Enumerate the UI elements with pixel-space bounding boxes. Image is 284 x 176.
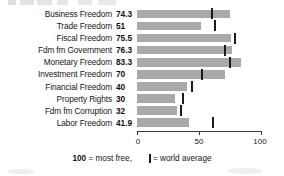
row-label: Property Rights (0, 93, 112, 105)
value-bar (137, 34, 231, 43)
value-bar (137, 58, 241, 67)
row-label: Fdm fm Corruption (0, 105, 112, 117)
table-row: Financial Freedom 40 (0, 81, 284, 93)
table-row: Investment Freedom 70 (0, 68, 284, 80)
table-row: Monetary Freedom 83.3 (0, 56, 284, 68)
table-row: Property Rights 30 (0, 93, 284, 105)
cropped-title-sliver (8, 0, 136, 5)
legend-most-free: 100 = most free, (73, 154, 132, 163)
world-average-tick (214, 20, 216, 31)
row-value: 30 (116, 93, 134, 105)
legend-most-free-text: = most free, (86, 154, 132, 163)
table-row: Trade Freedom 51 (0, 20, 284, 32)
world-average-tick (180, 105, 182, 116)
x-axis-tick-label: 100 (253, 136, 266, 147)
row-value: 83.3 (116, 56, 134, 68)
scan-smudge (8, 169, 34, 174)
row-plot (137, 117, 262, 129)
world-average-tick-icon (149, 154, 151, 163)
world-average-tick (224, 45, 226, 56)
row-plot (137, 32, 262, 44)
table-row: Fiscal Freedom 75.5 (0, 32, 284, 44)
row-label: Fdm fm Government (0, 44, 112, 56)
row-label: Financial Freedom (0, 81, 112, 93)
world-average-tick (229, 57, 231, 68)
world-average-tick (212, 117, 214, 128)
row-label: Trade Freedom (0, 20, 112, 32)
x-axis-tick-label: 50 (195, 136, 204, 147)
row-value: 76.3 (116, 44, 134, 56)
row-plot (137, 68, 262, 80)
table-row: Labor Freedom 41.9 (0, 117, 284, 129)
x-axis (137, 131, 262, 135)
world-average-tick (211, 8, 213, 19)
row-plot (137, 20, 262, 32)
row-plot (137, 56, 262, 68)
row-value: 75.5 (116, 32, 134, 44)
value-bar (137, 46, 232, 55)
world-average-tick (234, 33, 236, 44)
row-label: Fiscal Freedom (0, 32, 112, 44)
row-plot (137, 105, 262, 117)
row-value: 32 (116, 105, 134, 117)
chart-legend: 100 = most free, = world average (0, 151, 284, 165)
world-average-tick (191, 81, 193, 92)
row-value: 40 (116, 81, 134, 93)
table-row: Business Freedom 74.3 (0, 8, 284, 20)
x-axis-tick (137, 131, 138, 135)
row-label: Investment Freedom (0, 68, 112, 80)
x-axis-tick (199, 131, 200, 135)
x-axis-tick (261, 131, 262, 135)
row-plot (137, 93, 262, 105)
table-row: Fdm fm Government 76.3 (0, 44, 284, 56)
scan-smudge (228, 168, 262, 174)
freedom-index-chart: Business Freedom 74.3 Trade Freedom 51 F… (0, 0, 284, 176)
value-bar (137, 22, 201, 31)
value-bar (137, 82, 187, 91)
table-row: Fdm fm Corruption 32 (0, 105, 284, 117)
legend-world-average-text: = world average (153, 154, 211, 163)
legend-most-free-number: 100 (73, 154, 87, 163)
x-axis-tick-label: 0 (136, 136, 140, 147)
x-axis-labels: 0 50 100 (137, 136, 262, 147)
world-average-tick (182, 93, 184, 104)
row-value: 51 (116, 20, 134, 32)
value-bar (137, 118, 189, 127)
value-bar (137, 94, 175, 103)
row-label: Monetary Freedom (0, 56, 112, 68)
value-bar (137, 106, 177, 115)
value-bar (137, 10, 230, 19)
row-value: 41.9 (116, 117, 134, 129)
row-label: Business Freedom (0, 8, 112, 20)
row-value: 70 (116, 68, 134, 80)
row-plot (137, 81, 262, 93)
world-average-tick (201, 69, 203, 80)
row-label: Labor Freedom (0, 117, 112, 129)
row-value: 74.3 (116, 8, 134, 20)
row-plot (137, 44, 262, 56)
row-plot (137, 8, 262, 20)
chart-rows: Business Freedom 74.3 Trade Freedom 51 F… (0, 8, 284, 129)
value-bar (137, 70, 225, 79)
